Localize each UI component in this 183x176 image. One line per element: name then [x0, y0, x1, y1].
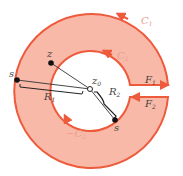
annulus-diagram: C1 C2 −C2 F1 F2 R1 R2 z z0 s s: [0, 0, 183, 176]
point-z0: [88, 87, 93, 92]
label-c1: C1: [141, 15, 152, 27]
label-r1: R1: [43, 91, 55, 103]
neg-c2-arrow-icon: [66, 118, 68, 122]
label-s-bottom: s: [114, 122, 119, 133]
label-r2: R2: [108, 86, 121, 98]
label-z: z: [46, 48, 53, 59]
label-s-left: s: [9, 68, 14, 79]
label-z0: z0: [91, 75, 101, 87]
point-s-left: [14, 77, 20, 83]
c1-arrow-icon: [120, 15, 128, 19]
point-z: [48, 60, 54, 66]
